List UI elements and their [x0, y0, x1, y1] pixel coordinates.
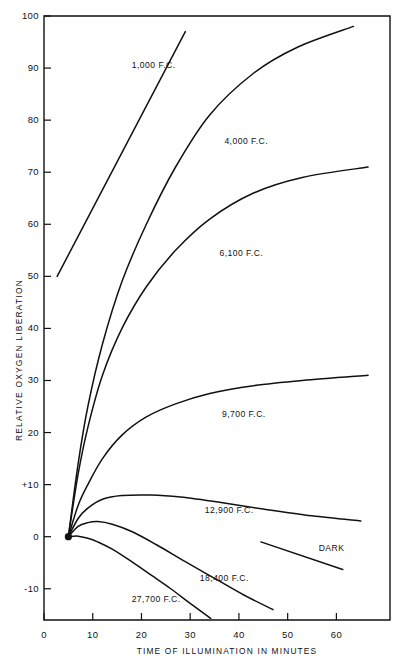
y-tick-label: 50 — [28, 270, 39, 281]
y-tick-label: -10 — [24, 583, 39, 594]
chart-figure: 0102030405060 -100+102030405060708090100… — [0, 0, 401, 663]
y-axis-title: RELATIVE OXYGEN LIBERATION — [14, 279, 24, 441]
y-axis-ticks: -100+102030405060708090100 — [22, 10, 51, 594]
curve-12-900-f-c — [68, 495, 360, 537]
series-label: 1,000 F.C. — [132, 60, 176, 70]
y-tick-label: +10 — [22, 479, 39, 490]
series-label: 12,900 F.C. — [205, 505, 254, 515]
x-tick-label: 60 — [331, 629, 342, 640]
series-label: 18,400 F.C. — [200, 573, 249, 583]
y-tick-label: 40 — [28, 322, 39, 333]
x-tick-label: 40 — [233, 629, 244, 640]
series-labels: 1,000 F.C.4,000 F.C.6,100 F.C.9,700 F.C.… — [132, 60, 345, 604]
y-tick-label: 30 — [28, 374, 39, 385]
y-tick-label: 60 — [28, 218, 39, 229]
x-axis-ticks: 0102030405060 — [41, 613, 342, 640]
y-tick-label: 70 — [28, 166, 39, 177]
x-tick-label: 0 — [41, 629, 47, 640]
series-label: DARK — [319, 543, 345, 553]
series-label: 4,000 F.C. — [224, 136, 268, 146]
origin-dot — [65, 533, 72, 540]
x-tick-label: 20 — [136, 629, 147, 640]
curve-27-700-f-c — [68, 536, 210, 618]
x-tick-label: 30 — [185, 629, 196, 640]
data-curves — [57, 26, 368, 618]
y-tick-label: 90 — [28, 62, 39, 73]
oxygen-liberation-chart: 0102030405060 -100+102030405060708090100… — [0, 0, 401, 663]
series-label: 6,100 F.C. — [220, 248, 264, 258]
y-tick-label: 20 — [28, 427, 39, 438]
x-axis-title: TIME OF ILLUMINATION IN MINUTES — [137, 646, 318, 656]
y-tick-label: 0 — [33, 531, 39, 542]
curve-6-100-f-c — [68, 167, 368, 537]
y-tick-label: 100 — [22, 10, 39, 21]
y-tick-label: 80 — [28, 114, 39, 125]
series-label: 27,700 F.C. — [132, 594, 181, 604]
x-tick-label: 10 — [87, 629, 98, 640]
x-tick-label: 50 — [282, 629, 293, 640]
series-label: 9,700 F.C. — [222, 409, 266, 419]
curve-4-000-f-c — [68, 26, 353, 536]
